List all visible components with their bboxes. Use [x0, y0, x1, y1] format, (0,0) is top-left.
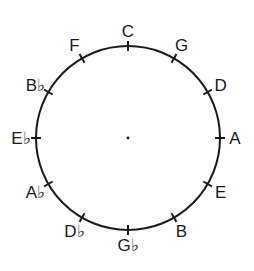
- note-label-g: G: [175, 36, 188, 55]
- note-label-a: A: [229, 129, 241, 148]
- center-dot: [127, 137, 130, 140]
- note-label-f: F: [69, 36, 79, 55]
- note-label-c: C: [122, 22, 134, 41]
- note-label-e: E: [215, 183, 226, 202]
- note-label-b: B: [176, 222, 187, 241]
- circle-of-fifths-diagram: C G D A E B G♭ D♭ A♭ E♭ B♭ F: [0, 0, 254, 271]
- note-label-b-flat: B♭: [26, 76, 45, 95]
- note-labels: C G D A E B G♭ D♭ A♭ E♭ B♭ F: [11, 22, 241, 255]
- note-label-d: D: [215, 76, 227, 95]
- note-label-g-flat: G♭: [117, 236, 138, 255]
- note-label-e-flat: E♭: [11, 129, 30, 148]
- note-label-d-flat: D♭: [64, 222, 84, 241]
- note-label-a-flat: A♭: [26, 183, 45, 202]
